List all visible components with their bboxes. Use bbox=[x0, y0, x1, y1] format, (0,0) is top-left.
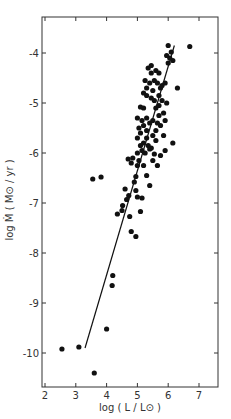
data-point bbox=[170, 58, 175, 63]
data-point bbox=[98, 174, 103, 179]
data-point bbox=[153, 128, 158, 133]
data-point bbox=[126, 193, 131, 198]
data-point bbox=[158, 153, 163, 158]
data-point bbox=[135, 163, 140, 168]
data-point bbox=[153, 138, 158, 143]
data-point bbox=[144, 85, 149, 90]
y-axis-label: log Ṁ ( M⊙ / yr ) bbox=[3, 159, 15, 240]
y-tick-label: -4 bbox=[29, 48, 39, 59]
data-point bbox=[166, 43, 171, 48]
data-point bbox=[129, 160, 134, 165]
data-point bbox=[150, 88, 155, 93]
data-point bbox=[119, 208, 124, 213]
data-point bbox=[161, 110, 166, 115]
y-tick-label: -7 bbox=[29, 198, 39, 209]
y-tick-label: -6 bbox=[29, 148, 39, 159]
data-point bbox=[141, 163, 146, 168]
data-point bbox=[169, 49, 174, 54]
data-point bbox=[139, 195, 144, 200]
x-tick-label: 3 bbox=[73, 390, 79, 401]
data-point bbox=[110, 273, 115, 278]
data-point bbox=[156, 93, 161, 98]
data-point bbox=[141, 90, 146, 95]
y-axis-ticks: -4-5-6-7-8-9-10 bbox=[23, 48, 218, 359]
data-point bbox=[127, 214, 132, 219]
x-tick-label: 2 bbox=[42, 390, 48, 401]
y-tick-label: -10 bbox=[23, 348, 39, 359]
data-point bbox=[133, 174, 138, 179]
data-point bbox=[136, 125, 141, 130]
data-point bbox=[155, 80, 160, 85]
data-point bbox=[149, 145, 154, 150]
data-point bbox=[138, 104, 143, 109]
data-point bbox=[155, 120, 160, 125]
data-point bbox=[129, 229, 134, 234]
data-point bbox=[143, 78, 148, 83]
data-point bbox=[147, 183, 152, 188]
scatter-chart: 234567 -4-5-6-7-8-9-10 log ( L / L⊙ ) lo… bbox=[0, 0, 231, 419]
data-point bbox=[133, 188, 138, 193]
y-tick-label: -9 bbox=[29, 298, 39, 309]
data-point bbox=[104, 326, 109, 331]
data-point bbox=[149, 95, 154, 100]
data-point bbox=[138, 143, 143, 148]
plot-frame bbox=[42, 17, 218, 387]
data-point bbox=[187, 44, 192, 49]
data-point bbox=[130, 155, 135, 160]
data-point bbox=[122, 186, 127, 191]
data-point bbox=[90, 176, 95, 181]
data-point bbox=[144, 173, 149, 178]
data-point bbox=[136, 158, 141, 163]
data-point bbox=[59, 346, 64, 351]
data-point bbox=[76, 344, 81, 349]
data-point bbox=[163, 118, 168, 123]
data-point bbox=[156, 113, 161, 118]
data-point bbox=[170, 140, 175, 145]
x-tick-label: 5 bbox=[134, 390, 140, 401]
data-point bbox=[150, 158, 155, 163]
y-tick-label: -5 bbox=[29, 98, 39, 109]
data-point bbox=[149, 63, 154, 68]
data-point bbox=[147, 80, 152, 85]
data-point bbox=[149, 70, 154, 75]
data-point bbox=[144, 135, 149, 140]
data-point bbox=[139, 118, 144, 123]
x-tick-label: 6 bbox=[165, 390, 171, 401]
data-point bbox=[143, 150, 148, 155]
data-point bbox=[120, 203, 125, 208]
data-point bbox=[161, 133, 166, 138]
data-point bbox=[144, 128, 149, 133]
data-point bbox=[135, 135, 140, 140]
data-point bbox=[163, 80, 168, 85]
data-point bbox=[156, 70, 161, 75]
data-point bbox=[144, 115, 149, 120]
data-point bbox=[141, 123, 146, 128]
x-tick-label: 7 bbox=[196, 390, 202, 401]
data-point bbox=[155, 163, 160, 168]
data-point bbox=[133, 234, 138, 239]
data-point bbox=[92, 370, 97, 375]
data-point bbox=[166, 60, 171, 65]
data-point bbox=[135, 150, 140, 155]
data-point bbox=[163, 148, 168, 153]
y-tick-label: -8 bbox=[29, 248, 39, 259]
data-point bbox=[138, 130, 143, 135]
data-point bbox=[138, 209, 143, 214]
data-point bbox=[135, 194, 140, 199]
data-point bbox=[159, 98, 164, 103]
data-point bbox=[110, 283, 115, 288]
data-point bbox=[156, 103, 161, 108]
data-point bbox=[115, 211, 120, 216]
data-point bbox=[150, 118, 155, 123]
data-point bbox=[135, 115, 140, 120]
data-point bbox=[175, 85, 180, 90]
x-axis-label: log ( L / L⊙ ) bbox=[99, 402, 161, 413]
data-point bbox=[150, 133, 155, 138]
data-point bbox=[152, 151, 157, 156]
x-tick-label: 4 bbox=[103, 390, 109, 401]
data-point bbox=[132, 179, 137, 184]
data-point bbox=[164, 100, 169, 105]
